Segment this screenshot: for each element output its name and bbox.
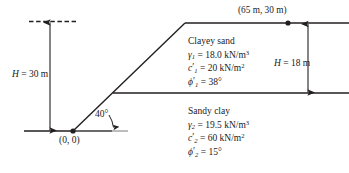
phi-subscript-1: 1	[195, 80, 198, 87]
phi-unit-1: °	[218, 77, 222, 87]
gamma-value-1: 18.0	[205, 49, 222, 59]
left-height-label: H = 30 m	[12, 70, 48, 80]
soil-layer-2-friction-angle: ϕ′2 = 15°	[188, 146, 249, 157]
soil-layer-1-unit-weight: γ1 = 18.0 kN/m3	[188, 49, 249, 60]
c-subscript-1: 1	[194, 67, 197, 74]
right-height-value: 18 m	[291, 58, 310, 68]
right-height-label: H = 18 m	[274, 59, 310, 69]
slope-stability-figure: (65 m, 30 m) H = 30 m H = 18 m 40° (0, 0…	[0, 0, 349, 173]
c-unit-exp-1: 2	[241, 62, 244, 69]
soil-layer-1-cohesion: c′1 = 20 kN/m2	[188, 62, 249, 73]
crest-coordinate-label: (65 m, 30 m)	[238, 6, 287, 15]
origin-coordinate-label: (0, 0)	[59, 136, 80, 146]
phi-unit-2: °	[218, 147, 222, 157]
gamma-unit-1: kN/m	[224, 49, 246, 59]
slope-angle-label: 40°	[95, 110, 108, 120]
gamma-subscript-2: 2	[192, 123, 195, 130]
phi-subscript-2: 2	[195, 150, 198, 157]
c-unit-1: kN/m	[220, 63, 242, 73]
soil-layer-2-unit-weight: γ2 = 19.5 kN/m3	[188, 119, 249, 130]
right-height-symbol: H	[274, 58, 281, 68]
left-height-equals: =	[21, 69, 29, 79]
gamma-subscript-1: 1	[192, 53, 195, 60]
soil-layer-1-properties: Clayey sand γ1 = 18.0 kN/m3 c′1 = 20 kN/…	[188, 36, 249, 89]
c-value-2: 60	[208, 133, 218, 143]
soil-layer-1-friction-angle: ϕ′1 = 38°	[188, 76, 249, 87]
phi-value-1: 38	[208, 77, 218, 87]
soil-layer-2-name: Sandy clay	[188, 106, 249, 116]
slope-face-line	[73, 23, 185, 131]
soil-layer-1-name: Clayey sand	[188, 36, 249, 46]
diagram-canvas	[0, 0, 349, 173]
soil-layer-2-cohesion: c′2 = 60 kN/m2	[188, 132, 249, 143]
c-value-1: 20	[208, 63, 218, 73]
left-height-symbol: H	[12, 69, 19, 79]
gamma-unit-2: kN/m	[224, 119, 246, 129]
soil-layer-2-properties: Sandy clay γ2 = 19.5 kN/m3 c′2 = 60 kN/m…	[188, 106, 249, 159]
crest-point-marker	[285, 20, 290, 25]
right-height-equals: =	[283, 58, 291, 68]
left-height-value: 30 m	[29, 69, 48, 79]
toe-point-marker	[70, 128, 75, 133]
gamma-value-2: 19.5	[205, 119, 222, 129]
gamma-unit-exp-2: 3	[246, 119, 249, 126]
c-unit-2: kN/m	[220, 133, 242, 143]
slope-angle-arc	[109, 115, 114, 128]
c-subscript-2: 2	[194, 137, 197, 144]
gamma-unit-exp-1: 3	[246, 49, 249, 56]
c-unit-exp-2: 2	[241, 132, 244, 139]
phi-value-2: 15	[208, 147, 218, 157]
